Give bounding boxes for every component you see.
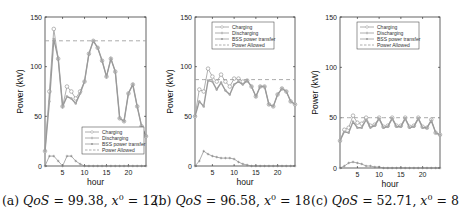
caption-qos: 96.58 — [220, 193, 256, 208]
caption-c: (c) QoS = 52.71, x0 = 8 — [305, 193, 465, 208]
svg-text:100: 100 — [325, 64, 337, 71]
svg-text:Power (kW): Power (kW) — [15, 69, 25, 114]
svg-text:50: 50 — [34, 113, 42, 120]
svg-text:5: 5 — [61, 169, 65, 176]
svg-text:20: 20 — [419, 171, 427, 178]
svg-text:Power (kW): Power (kW) — [165, 69, 175, 114]
svg-text:hour: hour — [381, 179, 398, 189]
chart-legend: ChargingDischargingBSS power transferPow… — [357, 22, 421, 49]
caption-x0: 8 — [451, 193, 459, 208]
svg-text:10: 10 — [230, 169, 238, 176]
svg-text:15: 15 — [397, 171, 405, 178]
chart-legend: ChargingDischargingBSS power transferPow… — [212, 22, 276, 49]
svg-text:100: 100 — [180, 63, 192, 70]
svg-text:0: 0 — [188, 163, 192, 170]
caption-qos: 99.38 — [68, 193, 104, 208]
svg-text:150: 150 — [30, 14, 42, 21]
svg-text:Power Allowed: Power Allowed — [377, 42, 410, 48]
chart-legend: ChargingDischargingBSS power transferPow… — [82, 127, 146, 154]
chart-panel-a: 5101520050100150hourPower (kW)ChargingDi… — [0, 0, 155, 217]
svg-text:150: 150 — [180, 14, 192, 21]
svg-text:Power Allowed: Power Allowed — [232, 42, 265, 48]
caption-a: (a) QoS = 99.38, x0 = 12 — [0, 193, 160, 208]
caption-label: (c) — [311, 193, 328, 208]
svg-text:20: 20 — [274, 169, 282, 176]
svg-text:0: 0 — [333, 165, 337, 172]
chart-svg: 5101520050100150hourPower (kW)ChargingDi… — [295, 0, 450, 190]
caption-label: (b) — [154, 193, 172, 208]
svg-text:15: 15 — [252, 169, 260, 176]
svg-text:10: 10 — [81, 169, 89, 176]
svg-text:hour: hour — [236, 177, 253, 187]
svg-text:100: 100 — [30, 63, 42, 70]
svg-text:50: 50 — [184, 113, 192, 120]
chart-panel-c: 5101520050100150hourPower (kW)ChargingDi… — [295, 0, 450, 217]
svg-text:20: 20 — [125, 169, 133, 176]
chart-panel-b: 5101520050100150hourPower (kW)ChargingDi… — [150, 0, 305, 217]
svg-text:hour: hour — [87, 177, 104, 187]
caption-label: (a) — [2, 193, 19, 208]
svg-text:150: 150 — [325, 14, 337, 21]
chart-svg: 5101520050100150hourPower (kW)ChargingDi… — [0, 0, 155, 190]
svg-text:50: 50 — [329, 114, 337, 121]
caption-qos: 52.71 — [377, 193, 413, 208]
svg-text:Power Allowed: Power Allowed — [102, 147, 135, 153]
svg-text:5: 5 — [355, 171, 359, 178]
svg-text:0: 0 — [38, 163, 42, 170]
svg-text:Power (kW): Power (kW) — [310, 70, 320, 115]
chart-svg: 5101520050100150hourPower (kW)ChargingDi… — [150, 0, 305, 190]
svg-text:10: 10 — [375, 171, 383, 178]
caption-b: (b) QoS = 96.58, x0 = 18 — [152, 193, 312, 208]
svg-text:15: 15 — [103, 169, 111, 176]
svg-text:5: 5 — [210, 169, 214, 176]
